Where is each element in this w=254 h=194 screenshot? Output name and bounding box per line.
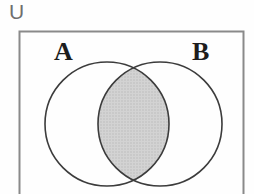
set-a-label: A	[54, 39, 73, 65]
universal-set-label: U	[9, 1, 24, 22]
venn-diagram-figure: U A B	[0, 0, 254, 194]
set-b-label: B	[192, 39, 209, 65]
venn-diagram-canvas	[0, 0, 254, 194]
